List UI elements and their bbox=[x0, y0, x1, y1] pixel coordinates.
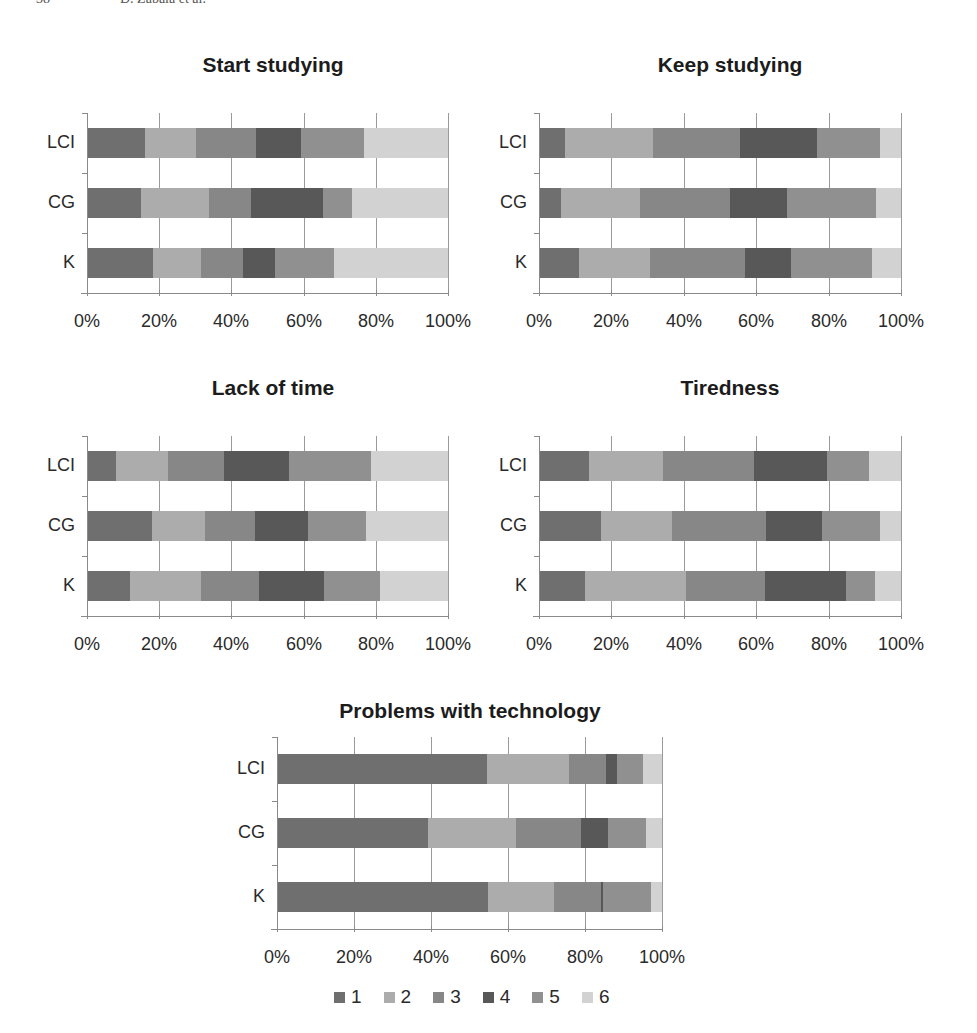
bar-segment-6 bbox=[869, 451, 901, 481]
legend-swatch bbox=[334, 992, 345, 1003]
bar-segment-4 bbox=[255, 511, 308, 541]
bar-segment-5 bbox=[308, 511, 366, 541]
category-label: CG bbox=[477, 192, 527, 213]
bar-segment-1 bbox=[278, 882, 488, 912]
x-tick-label: 0% bbox=[264, 947, 290, 968]
bar-segment-3 bbox=[569, 754, 606, 784]
bar-segment-3 bbox=[516, 818, 582, 848]
x-tick bbox=[277, 926, 278, 932]
stacked-bar-k bbox=[278, 882, 662, 912]
chart-title: Start studying bbox=[73, 53, 473, 77]
x-tick bbox=[585, 926, 586, 932]
bar-segment-1 bbox=[88, 188, 141, 218]
y-tick bbox=[82, 496, 87, 497]
stacked-bar-cg bbox=[540, 511, 901, 541]
bar-segment-2 bbox=[561, 188, 640, 218]
legend: 123456 bbox=[334, 986, 631, 1008]
category-label: K bbox=[25, 252, 75, 273]
x-tick-label: 20% bbox=[593, 634, 629, 655]
bar-segment-4 bbox=[243, 248, 275, 278]
x-tick-label: 80% bbox=[811, 634, 847, 655]
x-tick-label: 20% bbox=[141, 311, 177, 332]
category-label: LCI bbox=[477, 132, 527, 153]
category-label: CG bbox=[215, 822, 265, 843]
x-tick-label: 80% bbox=[811, 311, 847, 332]
x-tick bbox=[354, 926, 355, 932]
legend-label: 5 bbox=[549, 986, 560, 1008]
bar-segment-2 bbox=[589, 451, 663, 481]
legend-item-6: 6 bbox=[582, 986, 610, 1008]
y-tick bbox=[272, 801, 277, 802]
x-tick-label: 40% bbox=[213, 311, 249, 332]
x-tick-label: 60% bbox=[738, 311, 774, 332]
bar-segment-3 bbox=[672, 511, 765, 541]
bar-segment-2 bbox=[601, 511, 673, 541]
bar-segment-3 bbox=[205, 511, 255, 541]
x-tick-label: 100% bbox=[425, 311, 471, 332]
x-tick-label: 40% bbox=[666, 634, 702, 655]
bar-segment-5 bbox=[617, 754, 643, 784]
bar-segment-2 bbox=[487, 754, 569, 784]
gridline bbox=[448, 113, 449, 293]
x-tick bbox=[684, 613, 685, 619]
x-tick-label: 60% bbox=[286, 311, 322, 332]
bar-segment-1 bbox=[540, 571, 585, 601]
bar-segment-5 bbox=[791, 248, 872, 278]
x-tick-label: 40% bbox=[413, 947, 449, 968]
x-tick bbox=[901, 613, 902, 619]
bar-segment-6 bbox=[371, 451, 448, 481]
category-label: CG bbox=[25, 515, 75, 536]
bar-segment-1 bbox=[540, 248, 579, 278]
category-label: K bbox=[477, 575, 527, 596]
bar-segment-2 bbox=[153, 248, 201, 278]
bar-segment-5 bbox=[817, 128, 880, 158]
plot-area: 0%20%40%60%80%100%LCICGK bbox=[277, 737, 662, 929]
y-tick bbox=[534, 233, 539, 234]
category-label: CG bbox=[25, 192, 75, 213]
x-tick bbox=[431, 926, 432, 932]
x-tick-label: 60% bbox=[738, 634, 774, 655]
x-tick-label: 0% bbox=[526, 311, 552, 332]
stacked-bar-lci bbox=[88, 128, 448, 158]
x-tick-label: 20% bbox=[336, 947, 372, 968]
plot-area: 0%20%40%60%80%100%LCICGK bbox=[87, 113, 448, 293]
bar-segment-2 bbox=[428, 818, 516, 848]
x-tick bbox=[87, 290, 88, 296]
bar-segment-4 bbox=[740, 128, 817, 158]
bar-segment-1 bbox=[88, 248, 153, 278]
bar-segment-4 bbox=[224, 451, 290, 481]
bar-segment-3 bbox=[640, 188, 730, 218]
x-tick bbox=[508, 926, 509, 932]
legend-label: 6 bbox=[599, 986, 610, 1008]
x-tick-label: 40% bbox=[213, 634, 249, 655]
x-tick bbox=[231, 613, 232, 619]
x-tick bbox=[756, 613, 757, 619]
bar-segment-5 bbox=[608, 818, 646, 848]
bar-segment-3 bbox=[650, 248, 745, 278]
legend-label: 3 bbox=[450, 986, 461, 1008]
bar-segment-5 bbox=[275, 248, 334, 278]
x-tick-label: 20% bbox=[593, 311, 629, 332]
y-tick bbox=[272, 865, 277, 866]
legend-item-3: 3 bbox=[433, 986, 461, 1008]
x-tick bbox=[159, 290, 160, 296]
legend-swatch bbox=[532, 992, 543, 1003]
bar-segment-6 bbox=[880, 511, 901, 541]
bar-segment-6 bbox=[646, 818, 662, 848]
gridline bbox=[662, 737, 663, 929]
legend-item-2: 2 bbox=[384, 986, 412, 1008]
bar-segment-5 bbox=[846, 571, 875, 601]
x-tick bbox=[159, 613, 160, 619]
bar-segment-6 bbox=[880, 128, 901, 158]
stacked-bar-k bbox=[88, 248, 448, 278]
x-tick bbox=[611, 290, 612, 296]
bar-segment-6 bbox=[364, 128, 448, 158]
bar-segment-5 bbox=[323, 188, 352, 218]
gridline bbox=[448, 436, 449, 616]
y-tick bbox=[82, 113, 87, 114]
bar-segment-1 bbox=[540, 188, 561, 218]
legend-swatch bbox=[433, 992, 444, 1003]
category-label: K bbox=[25, 575, 75, 596]
x-axis bbox=[271, 929, 662, 930]
bar-segment-3 bbox=[663, 451, 754, 481]
